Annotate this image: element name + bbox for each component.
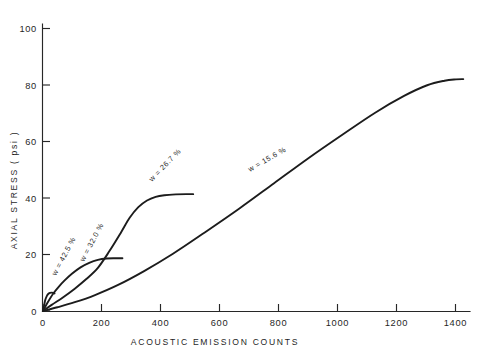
annotation-w-15-6: w = 15.6 % [246, 145, 288, 174]
y-ticklabel-60: 60 [25, 137, 37, 147]
y-axis-title: AXIAL STRESS ( psi ) [9, 131, 19, 250]
y-axis-tick-labels: 100 80 60 40 20 0 [19, 24, 37, 317]
chart-figure: 100 80 60 40 20 0 0 200 400 600 800 1000 [0, 0, 483, 354]
x-ticklabel-1400: 1400 [444, 318, 467, 328]
y-ticklabel-100: 100 [19, 24, 37, 34]
x-axis-title: ACOUSTIC EMISSION COUNTS [131, 337, 299, 347]
data-curves [43, 79, 463, 311]
annotation-w-26-7: w = 26.7 % [146, 147, 183, 184]
y-ticklabel-80: 80 [25, 81, 37, 91]
y-ticklabel-40: 40 [25, 194, 37, 204]
x-ticklabel-400: 400 [152, 318, 170, 328]
x-axis-tick-labels: 0 200 400 600 800 1000 1200 1400 [40, 318, 467, 328]
x-ticklabel-0: 0 [40, 318, 46, 328]
y-axis-ticks [43, 29, 51, 312]
y-ticklabel-20: 20 [25, 250, 37, 260]
x-ticklabel-1200: 1200 [385, 318, 408, 328]
x-axis-ticks [43, 304, 456, 312]
x-ticklabel-200: 200 [93, 318, 111, 328]
curve-annotations: w = 42.5 % w = 32.0 % w = 26.7 % w = 15.… [49, 145, 287, 278]
annotation-w-32-0: w = 32.0 % [77, 221, 105, 263]
x-ticklabel-600: 600 [211, 318, 229, 328]
y-ticklabel-0: 0 [31, 307, 37, 317]
x-ticklabel-1000: 1000 [326, 318, 349, 328]
curve-w-15-6 [43, 79, 463, 311]
acoustic-emission-stress-chart: 100 80 60 40 20 0 0 200 400 600 800 1000 [0, 0, 483, 354]
x-ticklabel-800: 800 [270, 318, 288, 328]
